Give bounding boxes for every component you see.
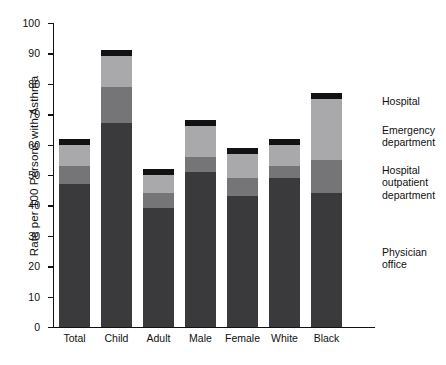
y-axis-tick: 80 [48, 84, 53, 85]
y-axis-tick: 20 [48, 266, 53, 267]
y-axis-tick: 90 [48, 53, 53, 54]
y-axis-tick: 40 [48, 205, 53, 206]
y-axis-tick-label: 70 [28, 108, 40, 120]
plot-area: 0102030405060708090100TotalChildAdultMal… [53, 23, 375, 327]
y-axis-tick-label: 20 [28, 260, 40, 272]
y-axis-tick-label: 40 [28, 199, 40, 211]
bar-white [269, 139, 300, 327]
y-axis-tick: 0 [48, 327, 53, 328]
bar-segment-emergency [59, 145, 90, 166]
legend-item-2: Hospital outpatient department [382, 164, 435, 201]
y-axis-tick-label: 90 [28, 47, 40, 59]
x-axis-label-black: Black [292, 332, 362, 344]
bar-segment-outpatient [269, 166, 300, 178]
bar-female [227, 148, 258, 327]
bar-segment-physician [59, 184, 90, 327]
legend-item-3: Physician office [382, 246, 427, 271]
y-axis-tick: 70 [48, 114, 53, 115]
bar-segment-outpatient [101, 87, 132, 123]
bar-segment-emergency [227, 154, 258, 178]
legend-item-0: Hospital [382, 95, 420, 107]
bar-segment-outpatient [311, 160, 342, 193]
bar-segment-emergency [311, 99, 342, 160]
bar-segment-physician [227, 196, 258, 327]
y-axis-tick: 10 [48, 297, 53, 298]
bar-segment-physician [269, 178, 300, 327]
chart-legend: HospitalEmergency departmentHospital out… [382, 0, 446, 365]
bar-segment-outpatient [227, 178, 258, 196]
bar-segment-physician [143, 208, 174, 327]
y-axis-tick: 60 [48, 145, 53, 146]
bar-segment-emergency [185, 126, 216, 156]
x-axis-line [53, 327, 375, 328]
bar-segment-physician [185, 172, 216, 327]
bar-segment-outpatient [59, 166, 90, 184]
y-axis-tick-label: 100 [22, 17, 40, 29]
y-axis-tick-label: 30 [28, 230, 40, 242]
bar-male [185, 120, 216, 327]
y-axis-tick-label: 80 [28, 78, 40, 90]
y-axis-tick-label: 10 [28, 291, 40, 303]
bar-total [59, 139, 90, 327]
bar-segment-emergency [143, 175, 174, 193]
bar-segment-physician [311, 193, 342, 327]
asthma-utilization-stacked-bar-chart: Rate per 100 Persons with Asthma 0102030… [0, 0, 446, 365]
bar-segment-physician [101, 123, 132, 327]
bar-adult [143, 169, 174, 327]
bar-segment-outpatient [143, 193, 174, 208]
bar-child [101, 50, 132, 327]
bar-segment-outpatient [185, 157, 216, 172]
y-axis-tick: 30 [48, 236, 53, 237]
bar-segment-emergency [269, 145, 300, 166]
legend-item-1: Emergency department [382, 124, 435, 149]
y-axis-tick-label: 60 [28, 139, 40, 151]
bar-segment-emergency [101, 56, 132, 86]
y-axis-tick: 50 [48, 175, 53, 176]
y-axis-line [53, 23, 54, 327]
y-axis-tick-label: 50 [28, 169, 40, 181]
bar-black [311, 93, 342, 327]
y-axis-tick: 100 [48, 23, 53, 24]
